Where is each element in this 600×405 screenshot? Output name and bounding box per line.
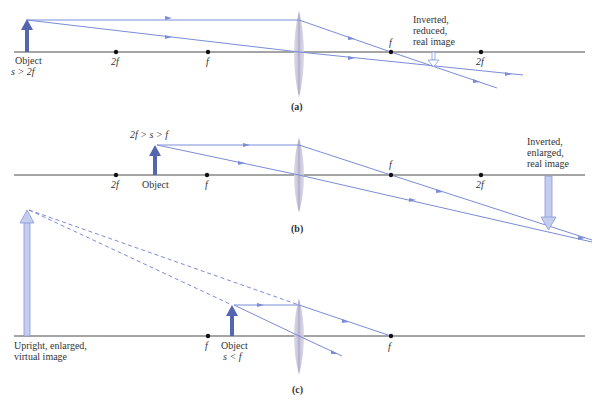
image-label-line: real image: [527, 158, 569, 169]
point-label: f: [205, 179, 209, 190]
point-label: 2f: [111, 179, 120, 190]
point-label: 2f: [111, 56, 120, 67]
point-label: f: [206, 56, 210, 67]
focal-point-2f: [114, 50, 118, 54]
object-arrow-icon: [21, 19, 33, 52]
image-label-line: enlarged,: [527, 147, 564, 158]
point-label: 2f: [476, 179, 485, 190]
object-label: Object: [221, 340, 248, 351]
central-ray: [234, 305, 342, 356]
ray-arrow-icon: [473, 79, 480, 83]
panel-caption: (b): [291, 223, 303, 235]
image-label-line: Upright, enlarged,: [14, 340, 87, 351]
image-label-line: real image: [413, 36, 455, 47]
point-label: f: [389, 159, 393, 170]
object-arrow-icon: [149, 145, 161, 175]
object-label: Object: [15, 55, 42, 66]
ray-arrow-icon: [348, 56, 355, 60]
focal-point-2f: [479, 173, 483, 177]
point-label: f: [389, 37, 393, 48]
focal-point-f: [205, 173, 209, 177]
condition-label: s < f: [223, 351, 243, 362]
condition-label: 2f > s > f: [130, 129, 169, 140]
ray-arrow-icon: [505, 72, 512, 76]
panel-a: 2f f f 2f Object s > 2f Inverted, reduce…: [11, 10, 585, 113]
object-arrow-icon: [226, 305, 238, 336]
ray-arrow-icon: [257, 303, 264, 307]
panel-caption: (a): [291, 101, 303, 113]
object-label: Object: [142, 179, 169, 190]
ray-arrow-icon: [165, 16, 172, 20]
image-label-line: virtual image: [14, 351, 68, 362]
virtual-ray-extension: [29, 210, 299, 305]
image-label-line: Inverted,: [527, 136, 563, 147]
lens-ray-diagram: 2f f f 2f Object s > 2f Inverted, reduce…: [0, 0, 600, 405]
image-label-line: Inverted,: [413, 14, 449, 25]
focal-point-2f: [114, 173, 118, 177]
point-label: f: [205, 340, 209, 351]
ray-arrow-icon: [238, 161, 245, 165]
focal-point-f: [389, 50, 393, 54]
panel-c: f f Object s < f Upright, enlarged, virt…: [14, 210, 585, 396]
image-arrow-icon: [541, 176, 556, 230]
virtual-image-arrow-icon: [20, 210, 34, 336]
focal-point-f: [389, 173, 393, 177]
focal-point-2f: [479, 50, 483, 54]
condition-label: s > 2f: [11, 66, 36, 77]
panel-b: 2f f f 2f Object 2f > s > f Inverted, en…: [14, 129, 592, 242]
point-label: f: [388, 341, 392, 352]
ray-arrow-icon: [243, 143, 250, 147]
point-label: 2f: [476, 56, 485, 67]
ray-arrow-icon: [165, 35, 172, 39]
focal-point-f: [206, 50, 210, 54]
focal-point-f: [206, 334, 210, 338]
virtual-ray-extension: [29, 210, 232, 305]
panel-caption: (c): [292, 384, 303, 396]
image-label-line: reduced,: [413, 25, 447, 36]
focal-point-f: [389, 334, 393, 338]
parallel-ray: [234, 305, 391, 336]
central-ray: [27, 20, 523, 75]
